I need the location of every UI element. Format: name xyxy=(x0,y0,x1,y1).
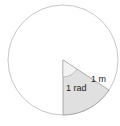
radian-diagram: 1 m 1 rad xyxy=(0,0,120,126)
angle-label: 1 rad xyxy=(66,83,87,93)
radius-label: 1 m xyxy=(91,74,106,84)
